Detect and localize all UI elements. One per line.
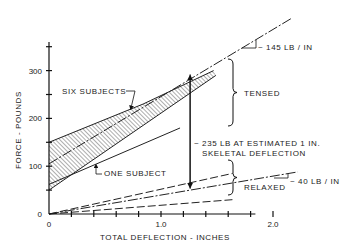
six-subjects-leader xyxy=(126,91,135,108)
relaxed-label: RELAXED xyxy=(244,183,286,192)
difference-label-line1: ~ 235 LB AT ESTIMATED 1 IN. xyxy=(194,139,320,148)
series-line-5 xyxy=(49,172,298,214)
difference-label-line2: SKELETAL DEFLECTION xyxy=(202,149,306,158)
y-tick-label: 0 xyxy=(38,210,43,219)
x-axis-label: TOTAL DEFLECTION - INCHES xyxy=(100,233,230,242)
series-line-4 xyxy=(49,173,233,214)
y-tick-label: 100 xyxy=(29,162,43,171)
x-tick-label: 0 xyxy=(47,220,52,229)
series-line-6 xyxy=(49,200,233,214)
force-deflection-chart: 01.02.00100200300 TOTAL DEFLECTION - INC… xyxy=(0,0,352,252)
one-subject-label: ONE SUBJECT xyxy=(104,169,167,178)
y-axis-label: FORCE - POUNDS xyxy=(14,91,23,169)
tensed-slope-label: ~ 145 LB / IN xyxy=(258,43,313,52)
tensed-label: TENSED xyxy=(244,89,280,98)
y-tick-label: 300 xyxy=(29,67,43,76)
x-tick-label: 1.0 xyxy=(155,220,167,229)
tensed-brace xyxy=(228,59,237,126)
relaxed-slope-label: ~ 40 LB / IN xyxy=(290,177,340,186)
x-tick-label: 2.0 xyxy=(267,220,279,229)
relaxed-brace xyxy=(228,160,237,195)
one-subject-leader xyxy=(96,166,102,174)
y-tick-label: 200 xyxy=(29,114,43,123)
six-subjects-label: SIX SUBJECTS xyxy=(62,87,126,96)
